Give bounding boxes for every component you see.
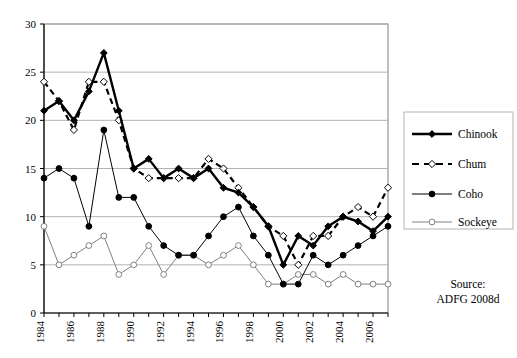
marker-coho-2	[71, 175, 77, 181]
marker-sockeye-2	[71, 252, 77, 258]
marker-sockeye-15	[265, 281, 271, 287]
y-tick-label-10: 10	[25, 211, 37, 223]
marker-coho-15	[265, 252, 271, 258]
x-tick-label-1994: 1994	[184, 321, 196, 344]
y-tick-label-15: 15	[25, 163, 37, 175]
source-line-2: ADFG 2008d	[437, 293, 500, 305]
marker-sockeye-8	[161, 272, 167, 278]
source-line-1: Source:	[450, 278, 485, 290]
marker-sockeye-4	[101, 233, 107, 239]
marker-coho-14	[250, 233, 256, 239]
marker-coho-20	[340, 252, 346, 258]
x-tick-label-1990: 1990	[124, 321, 136, 344]
chart-figure: 0510152025301984198619881990199219941996…	[0, 0, 517, 358]
x-tick-label-2000: 2000	[273, 321, 285, 344]
marker-coho-19	[325, 262, 331, 268]
marker-sockeye-19	[325, 281, 331, 287]
marker-sockeye-11	[206, 262, 212, 268]
marker-coho-13	[236, 204, 242, 210]
marker-sockeye-3	[86, 243, 92, 249]
chart-canvas: 0510152025301984198619881990199219941996…	[0, 0, 517, 358]
x-tick-label-1986: 1986	[64, 321, 76, 344]
marker-coho-4	[101, 127, 107, 133]
marker-sockeye-20	[340, 272, 346, 278]
x-tick-label-1992: 1992	[154, 321, 166, 343]
y-tick-label-30: 30	[25, 18, 37, 30]
marker-sockeye-21	[355, 281, 361, 287]
marker-sockeye-23	[385, 281, 391, 287]
x-tick-label-1998: 1998	[243, 321, 255, 344]
marker-coho-17	[295, 281, 301, 287]
marker-sockeye-6	[131, 262, 137, 268]
y-tick-label-25: 25	[25, 66, 37, 78]
legend-label-sockeye: Sockeye	[458, 216, 497, 229]
marker-sockeye-7	[146, 243, 152, 249]
marker-coho-10	[191, 252, 197, 258]
marker-sockeye-17	[295, 272, 301, 278]
x-tick-label-1996: 1996	[213, 321, 225, 344]
marker-coho-3	[86, 223, 92, 229]
x-tick-label-2004: 2004	[333, 321, 345, 344]
legend-label-chinook: Chinook	[458, 128, 498, 140]
legend-label-coho: Coho	[458, 188, 483, 200]
y-tick-label-20: 20	[25, 114, 37, 126]
marker-coho-0	[41, 175, 47, 181]
marker-coho-9	[176, 252, 182, 258]
marker-coho-11	[206, 233, 212, 239]
marker-coho-12	[221, 214, 227, 220]
marker-sockeye-14	[250, 262, 256, 268]
marker-sockeye-18	[310, 272, 316, 278]
y-tick-label-0: 0	[31, 307, 37, 319]
marker-coho-18	[310, 252, 316, 258]
marker-coho-6	[131, 195, 137, 201]
legend-label-chum: Chum	[458, 158, 486, 170]
marker-coho-21	[355, 243, 361, 249]
marker-coho-16	[280, 281, 286, 287]
marker-coho-5	[116, 195, 122, 201]
x-tick-label-2006: 2006	[363, 321, 375, 344]
x-tick-label-1984: 1984	[34, 321, 46, 344]
x-tick-label-2002: 2002	[303, 321, 315, 343]
marker-coho-23	[385, 223, 391, 229]
marker-legend-sockeye-0	[429, 219, 435, 225]
marker-sockeye-1	[56, 262, 62, 268]
marker-sockeye-13	[236, 243, 242, 249]
x-tick-label-1988: 1988	[94, 321, 106, 344]
marker-coho-8	[161, 243, 167, 249]
marker-coho-1	[56, 166, 62, 172]
marker-coho-7	[146, 223, 152, 229]
marker-sockeye-5	[116, 272, 122, 278]
marker-sockeye-12	[221, 252, 227, 258]
marker-sockeye-22	[370, 281, 376, 287]
y-tick-label-5: 5	[31, 259, 37, 271]
marker-sockeye-0	[41, 223, 47, 229]
marker-legend-coho-0	[429, 191, 435, 197]
